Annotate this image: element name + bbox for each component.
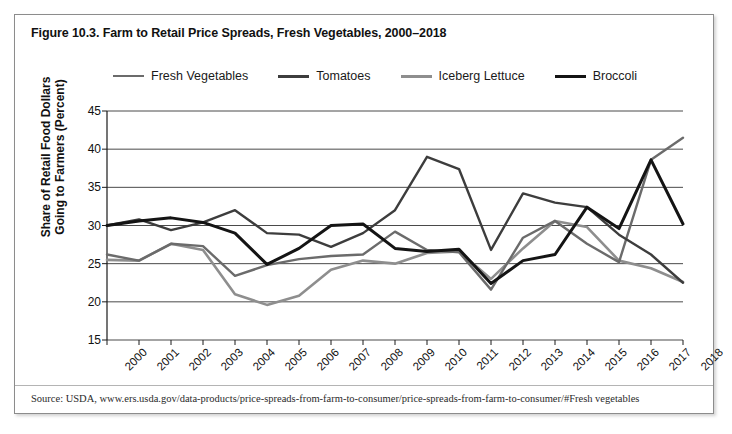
chart-legend: Fresh VegetablesTomatoesIceberg LettuceB… bbox=[113, 65, 703, 87]
figure-card: Figure 10.3. Farm to Retail Price Spread… bbox=[14, 14, 714, 414]
x-tick-label: 2006 bbox=[314, 346, 341, 373]
y-axis-title: Share of Retail Food Dollars Going to Fa… bbox=[39, 62, 67, 252]
y-tick-label: 25 bbox=[75, 257, 101, 271]
legend-label: Broccoli bbox=[593, 69, 637, 83]
y-axis-tick-labels: 15202530354045 bbox=[73, 111, 101, 340]
legend-swatch bbox=[401, 75, 432, 78]
x-tick-label: 2007 bbox=[346, 346, 373, 373]
y-tick-label: 35 bbox=[75, 180, 101, 194]
x-tick-label: 2014 bbox=[570, 346, 597, 373]
x-tick-label: 2011 bbox=[474, 346, 500, 372]
plot-area bbox=[107, 111, 683, 340]
x-tick-label: 2001 bbox=[154, 346, 181, 373]
x-tick-label: 2016 bbox=[634, 346, 661, 373]
y-tick-label: 15 bbox=[75, 333, 101, 347]
y-axis-title-line2: Going to Farmers (Percent) bbox=[53, 62, 67, 252]
legend-label: Fresh Vegetables bbox=[151, 69, 248, 83]
x-tick-label: 2002 bbox=[186, 346, 213, 373]
y-tick-label: 45 bbox=[75, 104, 101, 118]
legend-item: Broccoli bbox=[555, 69, 637, 83]
legend-label: Tomatoes bbox=[316, 69, 370, 83]
legend-swatch bbox=[555, 75, 586, 78]
legend-swatch bbox=[113, 75, 144, 77]
x-tick-label: 2004 bbox=[250, 346, 277, 373]
series-line-iceberg-lettuce bbox=[107, 221, 683, 305]
x-tick-label: 2009 bbox=[410, 346, 437, 373]
x-tick-label: 2012 bbox=[506, 346, 533, 373]
x-tick-label: 2003 bbox=[218, 346, 245, 373]
x-tick-label: 2013 bbox=[538, 346, 565, 373]
x-tick-label: 2017 bbox=[666, 346, 693, 373]
figure-title: Figure 10.3. Farm to Retail Price Spread… bbox=[31, 26, 446, 40]
y-tick-label: 30 bbox=[75, 219, 101, 233]
x-tick-label: 2000 bbox=[122, 346, 149, 373]
x-tick-label: 2005 bbox=[282, 346, 309, 373]
y-tick-label: 20 bbox=[75, 295, 101, 309]
legend-item: Fresh Vegetables bbox=[113, 69, 248, 83]
y-axis-title-line1: Share of Retail Food Dollars bbox=[39, 62, 53, 252]
line-chart bbox=[107, 111, 683, 340]
x-tick-label: 2010 bbox=[442, 346, 469, 373]
source-note: Source: USDA, www.ers.usda.gov/data-prod… bbox=[31, 393, 699, 404]
y-tick-label: 40 bbox=[75, 142, 101, 156]
legend-label: Iceberg Lettuce bbox=[439, 69, 525, 83]
legend-item: Iceberg Lettuce bbox=[401, 69, 525, 83]
x-tick-label: 2018 bbox=[698, 346, 725, 373]
legend-item: Tomatoes bbox=[278, 69, 370, 83]
legend-swatch bbox=[278, 75, 309, 78]
x-tick-label: 2008 bbox=[378, 346, 405, 373]
x-tick-label: 2015 bbox=[602, 346, 629, 373]
source-divider bbox=[15, 385, 713, 386]
